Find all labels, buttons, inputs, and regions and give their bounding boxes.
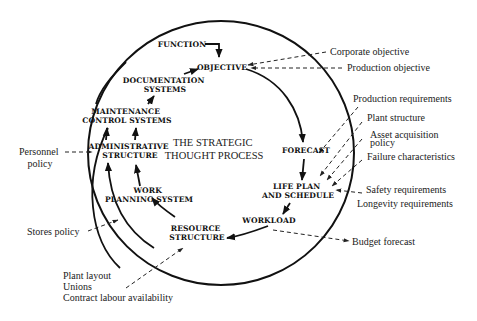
arrow-function-to-objective	[205, 44, 219, 57]
node-administrative-structure: ADMINISTRATIVE STRUCTURE	[88, 142, 172, 160]
node-documentation-systems: DOCUMENTATION SYSTEMS	[123, 76, 208, 94]
label-plant-structure: Plant structure	[367, 112, 426, 123]
label-production-objective: Production objective	[347, 62, 431, 73]
node-work-planning-system: WORK PLANNING SYSTEM	[105, 186, 194, 204]
external-arrows	[65, 52, 362, 288]
label-failure-characteristics: Failure characteristics	[367, 151, 455, 162]
node-objective: OBJECTIVE	[197, 63, 247, 72]
label-budget-forecast: Budget forecast	[352, 236, 415, 247]
arrow-forecast-to-lifeplan	[302, 159, 304, 180]
node-function: FUNCTION	[158, 40, 207, 49]
label-longevity-requirements: Longevity requirements	[357, 198, 453, 209]
label-stores-policy: Stores policy	[27, 226, 80, 237]
label-personnel-policy: Personnel policy	[19, 146, 61, 169]
label-corporate-objective: Corporate objective	[330, 46, 410, 57]
node-workload: WORKLOAD	[241, 216, 296, 225]
node-resource-structure: RESOURCE STRUCTURE	[169, 224, 224, 242]
label-safety-requirements: Safety requirements	[366, 184, 446, 195]
label-resource-inputs: Plant layout Unions Contract labour avai…	[63, 270, 173, 303]
diagram-title: THE STRATEGIC THOUGHT PROCESS	[165, 137, 264, 161]
node-maintenance-control-systems: MAINTENANCE CONTROL SYSTEMS	[82, 107, 172, 125]
node-life-plan-and-schedule: LIFE PLAN AND SCHEDULE	[261, 182, 334, 200]
arrow-resource-to-administrative	[108, 163, 154, 248]
label-production-requirements: Production requirements	[353, 93, 452, 104]
arrow-administrative-to-maintenance-right	[135, 128, 136, 140]
arrow-maintenance-to-documentation	[148, 96, 154, 104]
arrow-workload-to-resource	[227, 226, 268, 238]
arrow-budget-forecast	[273, 230, 349, 241]
arrow-lifeplan-to-workload	[283, 203, 290, 214]
arrow-workplanning-to-administrative	[136, 165, 140, 186]
arrow-objective-to-forecast	[246, 69, 303, 142]
arrow-failure-characteristics	[332, 160, 362, 186]
strategic-thought-process-diagram: THE STRATEGIC THOUGHT PROCESS FUNCTION O…	[0, 0, 477, 321]
node-forecast: FORECAST	[282, 146, 330, 155]
label-asset-acquisition-policy: Asset acquisition policy	[370, 129, 441, 148]
